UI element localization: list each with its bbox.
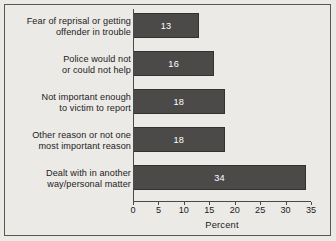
category-label-2-line2: to victim to report [11, 103, 131, 114]
category-label-1: Police would not or could not help [11, 54, 131, 75]
category-label-2-line1: Not important enough [11, 92, 131, 103]
category-label-3-line2: most important reason [11, 141, 131, 152]
chart-figure: Fear of reprisal or getting offender in … [0, 0, 336, 241]
category-label-1-line2: or could not help [11, 65, 131, 76]
x-tick-label-15: 15 [197, 205, 221, 216]
category-label-2: Not important enough to victim to report [11, 92, 131, 113]
bar-value-4: 34 [133, 173, 306, 183]
bar-value-0: 13 [133, 21, 199, 31]
x-tick-label-20: 20 [223, 205, 247, 216]
x-tick-label-25: 25 [248, 205, 272, 216]
category-label-3: Other reason or not one most important r… [11, 130, 131, 151]
x-axis-line [133, 201, 311, 202]
category-label-0-line2: offender in trouble [11, 27, 131, 38]
category-label-1-line1: Police would not [11, 54, 131, 65]
category-label-4-line1: Dealt with in another [11, 168, 131, 179]
bar-value-2: 18 [133, 97, 225, 107]
category-label-0-line1: Fear of reprisal or getting [11, 16, 131, 27]
x-tick-label-0: 0 [121, 205, 145, 216]
x-tick-label-35: 35 [299, 205, 323, 216]
x-tick-label-5: 5 [146, 205, 170, 216]
category-label-3-line1: Other reason or not one [11, 130, 131, 141]
y-axis-line [133, 9, 134, 201]
x-tick-label-30: 30 [274, 205, 298, 216]
bar-value-3: 18 [133, 135, 225, 145]
bar-value-1: 16 [133, 59, 214, 69]
category-label-4-line2: way/personal matter [11, 179, 131, 190]
x-tick-label-10: 10 [172, 205, 196, 216]
category-label-0: Fear of reprisal or getting offender in … [11, 16, 131, 37]
x-axis-title: Percent [133, 219, 311, 230]
category-label-4: Dealt with in another way/personal matte… [11, 168, 131, 189]
bar-chart-plot: Fear of reprisal or getting offender in … [0, 0, 336, 241]
